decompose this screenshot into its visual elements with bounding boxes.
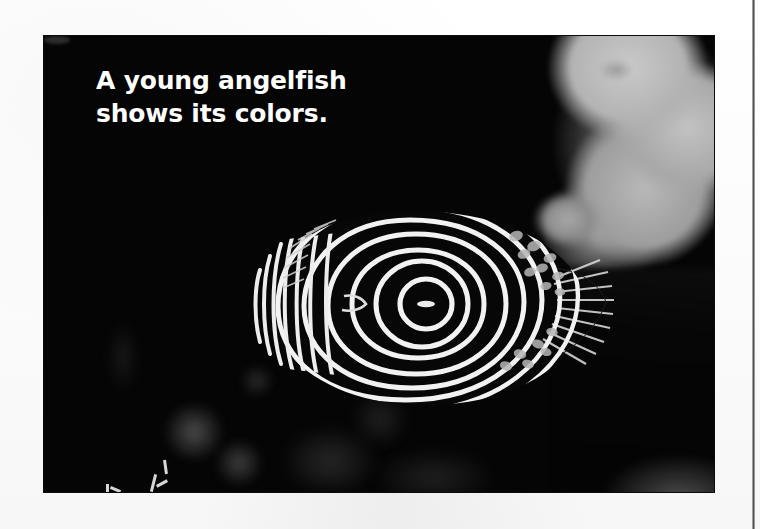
- background-blob: [240, 366, 274, 396]
- tail-fin-membrane: [542, 268, 606, 364]
- tail-fin: [543, 260, 614, 364]
- background-blob: [374, 450, 494, 492]
- fish-body: [260, 211, 586, 406]
- fish-rear-spots: [499, 229, 566, 372]
- fish-forehead-hatch: [283, 220, 336, 288]
- fish-ring-pattern: [226, 180, 578, 424]
- background-blob: [108, 322, 138, 392]
- column-rule: [752, 0, 755, 529]
- background-blob: [350, 392, 410, 446]
- coral-tip: [600, 60, 632, 80]
- page-root: A young angelfish shows its colors.: [0, 0, 760, 529]
- coral-mass: [544, 36, 714, 293]
- coral-sprig: [106, 484, 109, 492]
- background-blob: [214, 440, 264, 486]
- angelfish-photo: A young angelfish shows its colors.: [44, 36, 714, 492]
- fish-head-stripes: [256, 216, 337, 390]
- coral-sprig: [110, 486, 121, 492]
- photo-caption: A young angelfish shows its colors.: [96, 64, 456, 130]
- coral-spur: [516, 188, 602, 258]
- coral-sprig: [163, 460, 168, 474]
- background-blob: [162, 404, 226, 460]
- background-blob: [282, 426, 378, 492]
- caption-line-1: A young angelfish: [96, 64, 456, 97]
- coral-sprig: [150, 474, 157, 492]
- angelfish: [194, 176, 614, 426]
- bottom-haze: [604, 456, 714, 492]
- fish-pectoral-fin: [342, 295, 366, 310]
- caption-line-2: shows its colors.: [96, 97, 456, 130]
- coral-sprig: [156, 479, 168, 487]
- dark-rock: [556, 268, 714, 492]
- coral-nick: [44, 36, 70, 44]
